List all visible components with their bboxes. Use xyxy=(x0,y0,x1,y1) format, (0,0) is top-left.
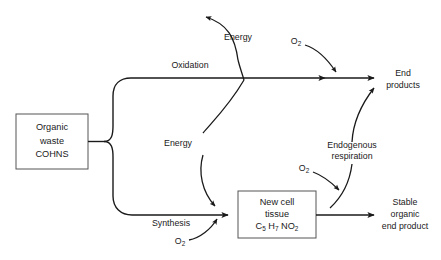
stable-product-line-1: Stable xyxy=(393,197,418,207)
formula-part-2-sub: 2 xyxy=(295,225,299,232)
endogenous-label-line-1: Endogenous xyxy=(327,140,377,150)
energy-mid-curve-upper xyxy=(203,80,244,133)
diagram-canvas: Organic waste COHNS New cell tissue C5 H… xyxy=(0,0,441,260)
new-cell-tissue-line-2: tissue xyxy=(265,209,289,219)
synthesis-flow-line xyxy=(104,142,228,216)
o2-to-endogenous-curve xyxy=(313,172,339,190)
stable-product-line-2: organic xyxy=(391,209,420,219)
process-diagram: Organic waste COHNS New cell tissue C5 H… xyxy=(0,0,441,260)
o2-to-oxidation-curve xyxy=(305,45,336,72)
stable-product-line-3: end product xyxy=(382,221,429,231)
new-cell-tissue-line-1: New cell xyxy=(260,197,295,207)
organic-waste-line-1: Organic xyxy=(36,122,69,132)
endogenous-curve-lower xyxy=(330,164,352,208)
o2-bottom-left-label: O2 xyxy=(175,236,186,247)
energy-mid-curve-lower xyxy=(201,155,215,206)
endogenous-curve-upper xyxy=(352,88,374,142)
organic-waste-line-2: waste xyxy=(39,136,64,146)
energy-top-curve-tail xyxy=(238,60,244,80)
formula-part-2-text: NO xyxy=(279,221,295,231)
end-products-line-2: products xyxy=(386,80,420,90)
synthesis-label: Synthesis xyxy=(152,218,191,228)
energy-top-label: Energy xyxy=(224,32,252,42)
endogenous-label-line-2: respiration xyxy=(331,151,372,161)
o2-to-synthesis-curve xyxy=(189,219,217,240)
o2-mid-right-label: O2 xyxy=(299,163,310,174)
organic-waste-line-3: COHNS xyxy=(35,149,68,159)
formula-part-1-text: H xyxy=(266,221,275,231)
oxidation-flow-line xyxy=(104,78,325,142)
energy-mid-label: Energy xyxy=(164,138,192,148)
o2-top-right-label: O2 xyxy=(291,36,302,47)
oxidation-label: Oxidation xyxy=(171,60,208,70)
end-products-line-1: End xyxy=(395,68,411,78)
